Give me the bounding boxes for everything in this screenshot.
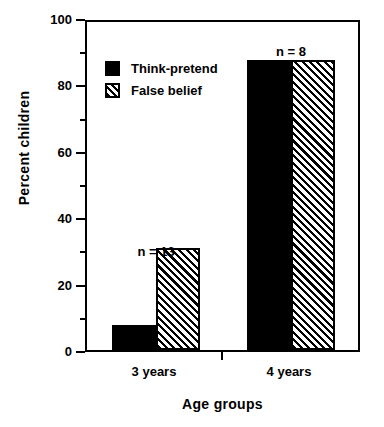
annotation-n-3years: n = 13 <box>137 244 174 259</box>
x-axis-title: Age groups <box>85 396 360 412</box>
y-tick-line <box>76 85 85 87</box>
legend-item-false-belief: False belief <box>105 79 218 101</box>
y-tick-label: 20 <box>58 277 72 294</box>
x-tick-center <box>221 352 223 360</box>
y-tick-label: 40 <box>58 210 72 227</box>
x-category-label-4years: 4 years <box>267 364 312 379</box>
legend-item-think-pretend: Think-pretend <box>105 57 218 79</box>
y-tick-label: 0 <box>65 343 72 360</box>
legend-swatch-hatched-icon <box>105 83 120 98</box>
y-tick-line <box>76 152 85 154</box>
legend-swatch-solid-icon <box>105 61 120 76</box>
y-tick-line <box>76 351 85 353</box>
y-tick-line <box>76 285 85 287</box>
y-axis: 100 80 60 40 20 <box>0 20 85 352</box>
legend-label: False belief <box>131 83 202 98</box>
x-axis: 3 years 4 years <box>85 352 360 362</box>
y-axis-title: Percent children <box>16 78 32 218</box>
bar-4years-think-pretend <box>247 60 291 351</box>
y-tick-label: 100 <box>50 11 72 28</box>
legend-label: Think-pretend <box>131 61 218 76</box>
plot-area: n = 13 n = 8 Think-pretend False belief <box>87 22 358 350</box>
bar-4years-false-belief <box>291 60 335 351</box>
x-category-label-3years: 3 years <box>132 364 177 379</box>
legend: Think-pretend False belief <box>105 57 218 101</box>
y-tick-label: 60 <box>58 144 72 161</box>
bar-chart-figure: 100 80 60 40 20 <box>0 0 384 427</box>
plot-frame: n = 13 n = 8 Think-pretend False belief <box>85 20 360 352</box>
bar-3years-false-belief <box>156 248 200 350</box>
annotation-n-4years: n = 8 <box>276 44 306 59</box>
y-tick-line <box>76 19 85 21</box>
y-tick-line <box>76 218 85 220</box>
y-tick-label: 80 <box>58 77 72 94</box>
bar-3years-think-pretend <box>112 325 156 351</box>
